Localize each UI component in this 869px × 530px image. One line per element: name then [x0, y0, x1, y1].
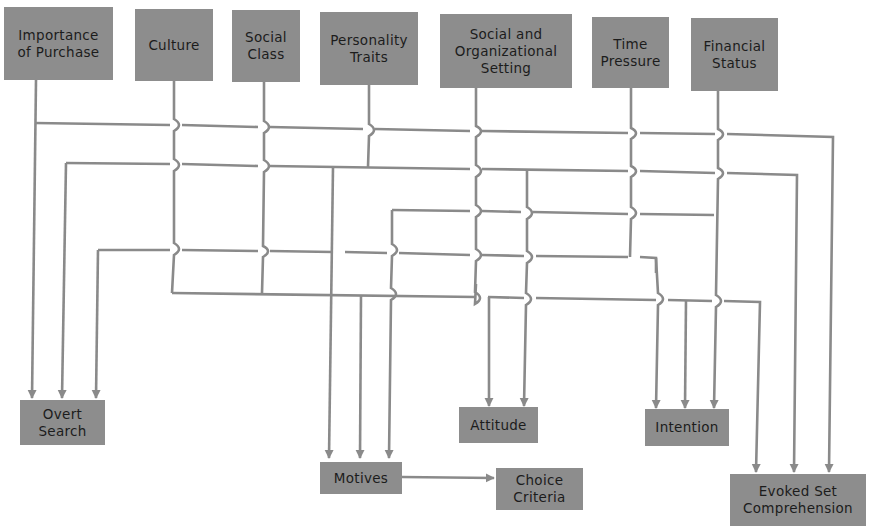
label-motives: Motives — [334, 470, 388, 487]
box-motives: Motives — [320, 462, 402, 494]
edge-motives-3 — [389, 210, 397, 458]
edge-intention-1 — [656, 258, 663, 408]
box-choice-criteria: Choice Criteria — [496, 468, 583, 510]
box-intention: Intention — [645, 409, 729, 446]
label-intention: Intention — [655, 419, 718, 436]
edge-importance-overt-search — [32, 80, 36, 398]
label-overt-search: Overt Search — [38, 406, 86, 440]
box-overt-search: Overt Search — [20, 400, 105, 445]
label-social-class: Social Class — [245, 29, 287, 63]
edge-social-class-trunk — [262, 82, 269, 293]
edge-culture-overt-search — [62, 163, 66, 398]
box-personality-traits: Personality Traits — [320, 12, 418, 85]
label-social-org: Social and Organizational Setting — [455, 26, 558, 77]
label-importance: Importance of Purchase — [18, 27, 100, 61]
box-financial-status: Financial Status — [691, 18, 778, 91]
edge-motives-choice-criteria — [402, 477, 494, 478]
edge-intention-2 — [685, 300, 686, 408]
label-culture: Culture — [148, 37, 199, 54]
label-evoked-set: Evoked Set Comprehension — [743, 483, 853, 517]
label-choice-criteria: Choice Criteria — [513, 472, 565, 506]
label-personality: Personality Traits — [330, 32, 408, 66]
label-financial: Financial Status — [704, 38, 766, 72]
edge-social-org-trunk — [475, 88, 481, 304]
label-time-pressure: Time Pressure — [600, 36, 660, 70]
edge-financial-trunk — [714, 91, 723, 408]
box-time-pressure: Time Pressure — [592, 17, 669, 88]
edge-time-pressure-trunk — [630, 88, 636, 257]
box-social-class: Social Class — [232, 10, 300, 82]
box-social-and-organizational-setting: Social and Organizational Setting — [440, 14, 572, 88]
box-attitude: Attitude — [459, 407, 538, 443]
edge-personality-trunk — [368, 85, 374, 167]
edge-motives-2 — [360, 295, 361, 458]
box-importance-of-purchase: Importance of Purchase — [4, 7, 113, 80]
box-culture: Culture — [135, 9, 213, 81]
label-attitude: Attitude — [470, 417, 526, 434]
edge-overt-search-3 — [96, 250, 98, 398]
box-evoked-set-comprehension: Evoked Set Comprehension — [730, 474, 866, 526]
edge-culture-trunk — [172, 81, 179, 293]
edge-attitude-2 — [524, 171, 532, 406]
